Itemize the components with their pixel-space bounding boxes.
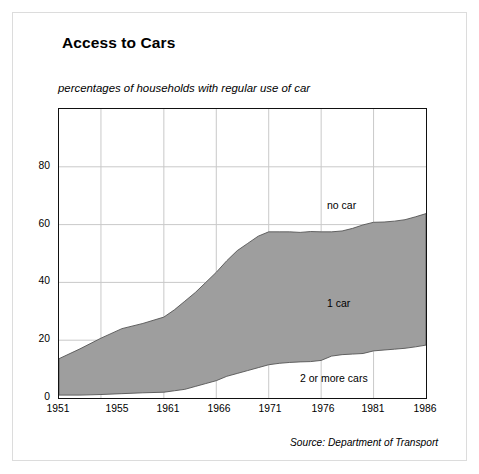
area-chart-svg (59, 109, 426, 398)
y-tick-20: 20 (22, 333, 50, 344)
source-note: Source: Department of Transport (290, 437, 438, 448)
x-tick-1951: 1951 (35, 403, 81, 414)
x-tick-1976: 1976 (300, 403, 346, 414)
y-tick-60: 60 (22, 218, 50, 229)
x-tick-1961: 1961 (145, 403, 191, 414)
page-title: Access to Cars (62, 34, 175, 52)
x-tick-1981: 1981 (350, 403, 396, 414)
y-tick-0: 0 (22, 391, 50, 402)
chart-page: Access to Cars percentages of households… (0, 0, 479, 474)
x-tick-1971: 1971 (247, 403, 293, 414)
chart-subtitle: percentages of households with regular u… (58, 82, 310, 94)
x-tick-1966: 1966 (196, 403, 242, 414)
y-tick-80: 80 (22, 160, 50, 171)
plot-area: no car 1 car 2 or more cars (58, 108, 427, 399)
series-label-no-car: no car (327, 199, 356, 211)
x-tick-1986: 1986 (402, 403, 448, 414)
y-tick-40: 40 (22, 275, 50, 286)
series-label-2-or-more: 2 or more cars (300, 372, 368, 384)
band-1-car (59, 214, 426, 395)
x-tick-1955: 1955 (94, 403, 140, 414)
series-label-1-car: 1 car (327, 297, 350, 309)
stacked-bands (59, 214, 426, 395)
